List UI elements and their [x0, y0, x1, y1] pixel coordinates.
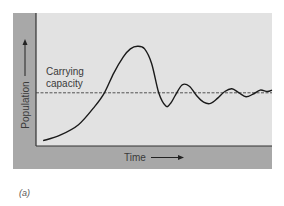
carrying-capacity-label-line-1: Carrying	[46, 66, 84, 77]
chart: Carrying capacity Population Time	[0, 0, 284, 206]
x-axis-label: Time	[124, 152, 146, 163]
y-axis-label: Population	[20, 81, 31, 128]
panel-label: (a)	[19, 188, 30, 198]
carrying-capacity-label-line-2: capacity	[46, 78, 83, 89]
